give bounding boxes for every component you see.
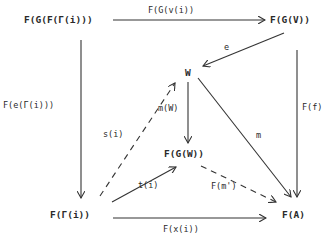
node-Fri: F(Γ(i)) [50,210,90,220]
node-W: W [185,68,191,78]
label-si: s(i) [103,130,123,139]
node-FA: F(A) [282,210,305,220]
arrow-m [198,78,291,197]
label-m: m [256,131,261,140]
diagram-arrows [0,0,334,240]
node-FGV: F(G(V)) [270,15,310,25]
node-FGFri: F(G(F(Γ(i))) [24,15,93,25]
label-right: F(f) [302,103,322,112]
commutative-diagram: F(G(F(Γ(i))) F(G(V)) W F(G(W)) F(Γ(i)) F… [0,0,334,240]
label-left: F(e(Γ(i))) [3,101,54,110]
label-top: F(G(v(i)) [148,6,194,15]
label-e: e [224,43,229,52]
label-ti: t(i) [138,181,158,190]
label-mW: m(W) [158,104,178,113]
label-bottom: F(x(i)) [163,225,199,234]
arrow-e [203,33,284,66]
label-Fm: F(m') [211,182,237,191]
node-FGW: F(G(W)) [164,149,204,159]
